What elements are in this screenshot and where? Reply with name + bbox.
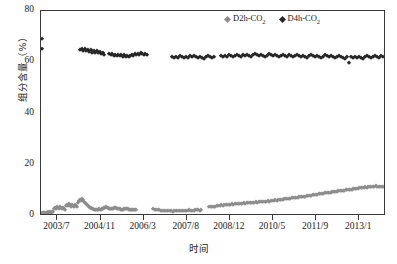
y-tick-label: 0	[8, 210, 34, 220]
data-point	[381, 55, 385, 60]
legend-marker-icon	[278, 16, 285, 23]
chart-legend: D2h-CO2D4h-CO2	[225, 14, 320, 25]
x-tick-mark	[186, 215, 187, 220]
legend-entry: D2h-CO2	[225, 14, 266, 25]
data-point	[74, 205, 79, 210]
x-tick-mark	[56, 215, 57, 220]
legend-marker-icon	[224, 16, 231, 23]
legend-entry: D4h-CO2	[280, 14, 321, 25]
x-axis-title: 时间	[0, 241, 397, 255]
data-point	[347, 60, 352, 65]
x-tick-mark	[315, 215, 316, 220]
y-tick-label: 40	[8, 108, 34, 118]
data-point	[144, 53, 149, 58]
x-tick-mark	[358, 215, 359, 220]
data-point	[40, 37, 44, 42]
data-point	[40, 47, 45, 52]
x-tick-label: 2013/1	[332, 221, 384, 231]
chart-figure: 组分含量（%） 020406080 D2h-CO2D4h-CO2 2003/72…	[0, 0, 397, 264]
plot-area	[40, 10, 385, 215]
y-tick-label: 60	[8, 56, 34, 66]
x-tick-mark	[272, 215, 273, 220]
y-tick-label: 80	[8, 5, 34, 15]
x-tick-mark	[229, 215, 230, 220]
legend-label: D4h-CO2	[288, 14, 321, 25]
y-tick-label: 20	[8, 159, 34, 169]
data-point	[102, 52, 107, 57]
legend-label: D2h-CO2	[233, 14, 266, 25]
x-tick-mark	[143, 215, 144, 220]
x-tick-mark	[100, 215, 101, 220]
data-point	[212, 54, 217, 59]
